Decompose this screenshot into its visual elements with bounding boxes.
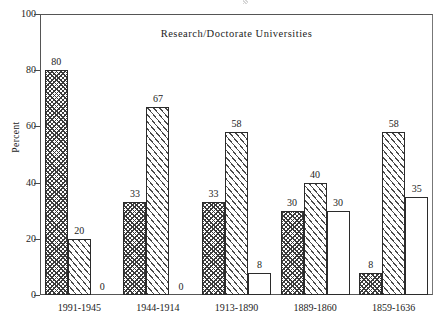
bar-value-label: 80 — [39, 57, 74, 67]
bar-value-label: 20 — [62, 226, 97, 236]
bar-value-label: 58 — [219, 119, 254, 129]
bar-value-label: 0 — [163, 282, 198, 292]
bar-value-label: 0 — [85, 282, 120, 292]
bars-layer: 80200336703358830403085835 — [40, 14, 433, 295]
bar-value-label: 30 — [321, 198, 356, 208]
y-tick-label: 20 — [10, 234, 36, 244]
y-axis-tick-labels: 020406080100 — [8, 0, 36, 331]
bar-1859-1636-s1 — [359, 273, 382, 295]
top-edge-artifact — [243, 0, 248, 4]
bar-value-label: 58 — [376, 119, 411, 129]
y-tick-mark — [34, 70, 40, 71]
x-tick-label: 1991-1945 — [39, 302, 119, 314]
bar-1913-1890-s2 — [225, 132, 248, 295]
y-tick-label: 100 — [10, 9, 36, 19]
y-tick-mark — [34, 14, 40, 15]
y-tick-mark — [34, 126, 40, 127]
bar-1859-1636-s3 — [405, 197, 428, 295]
y-tick-mark — [34, 295, 40, 296]
bar-chart: Percent 020406080100 Research/Doctorate … — [0, 0, 438, 331]
x-axis-tick-labels: 1991-19451944-19141913-18901889-18601859… — [40, 302, 433, 318]
bar-1889-1860-s3 — [327, 211, 350, 295]
bar-value-label: 8 — [242, 260, 277, 270]
y-tick-label: 0 — [10, 290, 36, 300]
bar-value-label: 67 — [140, 94, 175, 104]
bar-value-label: 40 — [298, 170, 333, 180]
y-tick-label: 40 — [10, 178, 36, 188]
x-tick-label: 1889-1860 — [275, 302, 355, 314]
y-tick-mark — [34, 239, 40, 240]
bar-1991-1945-s1 — [45, 70, 68, 295]
y-tick-label: 80 — [10, 65, 36, 75]
x-tick-label: 1913-1890 — [197, 302, 277, 314]
bar-1944-1914-s1 — [123, 202, 146, 295]
bar-1913-1890-s3 — [248, 273, 271, 295]
bar-value-label: 35 — [399, 184, 434, 194]
y-tick-label: 60 — [10, 121, 36, 131]
bar-1859-1636-s2 — [382, 132, 405, 295]
y-tick-mark — [34, 183, 40, 184]
bar-1944-1914-s2 — [146, 107, 169, 295]
bar-1889-1860-s1 — [281, 211, 304, 295]
bar-1913-1890-s1 — [202, 202, 225, 295]
x-tick-label: 1859-1636 — [354, 302, 434, 314]
x-tick-label: 1944-1914 — [118, 302, 198, 314]
